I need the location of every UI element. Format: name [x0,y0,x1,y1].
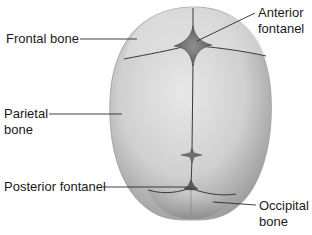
label-occipital-bone-line2: bone [259,214,288,229]
label-frontal-bone: Frontal bone [6,31,79,46]
label-anterior-fontanel-line2: fontanel [258,21,304,36]
label-occipital-bone-line1: Occipital [259,198,309,213]
label-parietal-bone-line2: bone [4,122,33,137]
label-posterior-fontanel: Posterior fontanel [4,179,106,194]
label-anterior-fontanel-line1: Anterior [258,5,304,20]
label-parietal-bone-line1: Parietal [4,106,48,121]
